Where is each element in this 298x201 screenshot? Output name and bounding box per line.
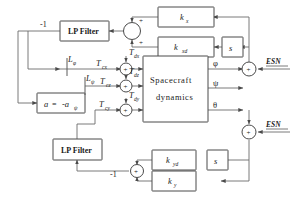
esn-top-label: ESN <box>265 57 281 66</box>
kyd-subscript: yd <box>172 161 178 167</box>
sum-bottom-sign: + <box>134 168 138 176</box>
sum-top-lower-sign: + <box>139 39 143 47</box>
diagram-text-layer: LP Filter -1 k x k xd s + + Spacecraft d… <box>0 0 298 201</box>
torque-cz-subscript: cz <box>106 82 111 88</box>
lp-filter-top-label: LP Filter <box>68 27 99 36</box>
dist-dx-subscript: dx <box>134 53 140 59</box>
sum-esn-top-sign: + <box>247 66 251 74</box>
kx-subscript: x <box>185 18 189 24</box>
gain-minus-one-top-label: -1 <box>40 20 47 29</box>
limiter-psi-subscript: ψ <box>91 79 95 85</box>
sum-dx-sign: + <box>124 66 128 74</box>
limiter-phi-subscript: φ <box>73 60 76 66</box>
output-phi-label: φ <box>213 58 218 68</box>
alpha-equals: = <box>52 100 57 109</box>
kx-label: k <box>180 12 184 22</box>
esn-bottom-label: ESN <box>265 120 281 129</box>
ky-subscript: y <box>173 182 177 188</box>
sum-dz-sign: + <box>124 83 128 91</box>
output-psi-label: ψ <box>213 78 219 88</box>
gain-minus-one-bottom-label: -1 <box>110 170 117 179</box>
kxd-label: k <box>174 42 178 52</box>
sum-esn-bottom-sign: + <box>247 129 251 137</box>
block-diagram-canvas: LP Filter -1 k x k xd s + + Spacecraft d… <box>0 0 298 201</box>
sum-top-upper-sign: + <box>139 17 143 25</box>
dist-dz-subscript: dz <box>134 72 140 78</box>
lp-filter-bottom-label: LP Filter <box>61 146 92 155</box>
spacecraft-label-line2: dynamics <box>156 92 193 102</box>
s-bottom-label: s <box>214 156 218 166</box>
spacecraft-label-line1: Spacecraft <box>150 75 192 85</box>
alpha-neg-label: -a <box>62 99 69 109</box>
torque-cy-subscript: cy <box>105 105 110 111</box>
alpha-label: a <box>44 99 48 109</box>
output-theta-label: θ <box>213 100 217 110</box>
kxd-subscript: xd <box>181 48 187 54</box>
kyd-label: k <box>166 155 170 165</box>
torque-cx-subscript: cx <box>102 64 107 70</box>
dist-dy-subscript: dy <box>134 96 140 102</box>
s-top-label: s <box>229 43 233 53</box>
sum-dy-sign: + <box>124 107 128 115</box>
alpha-subscript: ψ <box>74 105 78 111</box>
ky-label: k <box>168 176 172 186</box>
